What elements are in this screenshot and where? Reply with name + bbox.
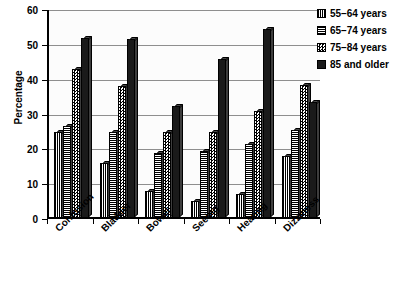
bar: [72, 69, 80, 217]
bar-group: [231, 10, 277, 217]
bar-group: [186, 10, 232, 217]
bar: [218, 59, 226, 217]
bar: [291, 130, 299, 217]
bar: [127, 39, 135, 217]
bar: [200, 151, 208, 217]
bar: [63, 126, 71, 217]
y-axis-tick-label: 10: [10, 179, 38, 190]
x-axis-tick-mark: [320, 219, 321, 224]
legend-item-label: 85 and older: [330, 59, 389, 70]
x-axis-tick-mark: [47, 219, 48, 224]
bar: [282, 156, 290, 217]
plot-area: [47, 10, 320, 219]
legend-item-label: 75–84 years: [330, 42, 387, 53]
bar: [81, 38, 89, 217]
bar: [191, 201, 199, 217]
legend-item[interactable]: 65–74 years: [317, 23, 403, 38]
bar: [263, 29, 271, 217]
bar: [245, 144, 253, 217]
bar: [172, 106, 180, 217]
legend-item-label: 55–64 years: [330, 8, 387, 19]
y-axis-tick-label: 0: [10, 214, 38, 225]
legend-item-label: 65–74 years: [330, 25, 387, 36]
x-axis-tick-mark: [138, 219, 139, 224]
plot-inner: [49, 10, 320, 217]
legend-item[interactable]: 55–64 years: [317, 6, 403, 21]
bar: [145, 191, 153, 217]
bar: [118, 86, 126, 217]
y-axis-tick-label: 40: [10, 74, 38, 85]
bar-group: [49, 10, 95, 217]
y-axis-tick-label: 50: [10, 39, 38, 50]
y-axis-title: Percentage: [13, 58, 24, 138]
bar-chart: Percentage 0102030405060 ConfusionBladde…: [0, 0, 406, 284]
y-axis-tick-label: 20: [10, 144, 38, 155]
bar: [54, 132, 62, 217]
y-axis-tick-label: 60: [10, 5, 38, 16]
legend-item[interactable]: 75–84 years: [317, 40, 403, 55]
x-axis-tick-mark: [184, 219, 185, 224]
bar: [300, 85, 308, 217]
y-axis-tick-label: 30: [10, 109, 38, 120]
legend-swatch-icon: [317, 9, 326, 18]
bar-group: [95, 10, 141, 217]
legend-item[interactable]: 85 and older: [317, 57, 403, 72]
legend: 55–64 years65–74 years75–84 years85 and …: [317, 6, 403, 74]
bar-group: [140, 10, 186, 217]
bar: [109, 132, 117, 217]
bar: [236, 194, 244, 217]
legend-swatch-icon: [317, 60, 326, 69]
legend-swatch-icon: [317, 43, 326, 52]
bar-group: [277, 10, 323, 217]
x-axis-tick-mark: [275, 219, 276, 224]
x-axis-tick-mark: [93, 219, 94, 224]
bar: [100, 163, 108, 217]
x-axis-tick-mark: [229, 219, 230, 224]
legend-swatch-icon: [317, 26, 326, 35]
